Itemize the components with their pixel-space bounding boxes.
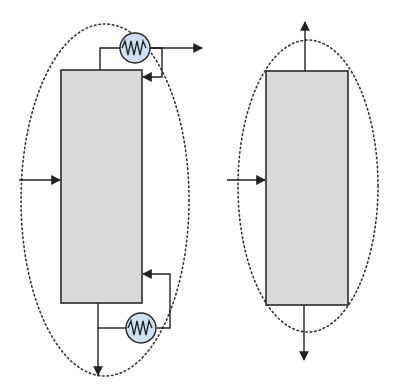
left-system bbox=[19, 24, 202, 376]
reboiler-icon[interactable] bbox=[126, 313, 156, 343]
condenser-icon[interactable] bbox=[120, 33, 150, 63]
right-system bbox=[227, 22, 378, 360]
left-column[interactable] bbox=[61, 70, 142, 303]
left-overhead-vapor-line bbox=[100, 48, 120, 70]
diagram-canvas bbox=[0, 0, 398, 392]
right-column[interactable] bbox=[266, 71, 348, 305]
